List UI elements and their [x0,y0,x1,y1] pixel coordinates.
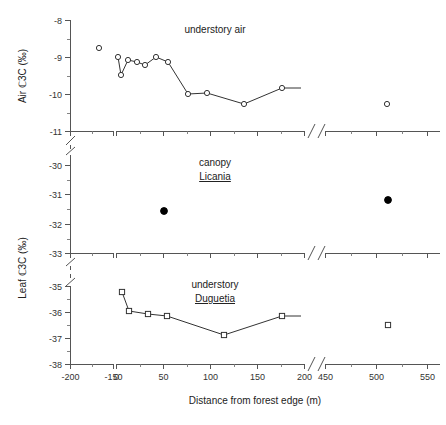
mid-x-axis-break-icon [308,246,325,260]
x-ticklabel: 100 [203,372,218,382]
top-x-axis-break-icon [308,124,325,138]
mid-y-ticklabel: -31 [49,190,62,200]
top-data-point [185,91,190,96]
bot-x-axis-break-icon [308,357,325,371]
top-y-ticklabel: -9 [54,53,62,63]
mid-panel-title: canopy [199,157,231,168]
top-data-point [125,57,130,62]
top-isolated-point-right [384,101,389,106]
x-ticklabel: 450 [318,372,333,382]
x-ticklabel: 500 [369,372,384,382]
bot-data-point [279,313,284,318]
panel-bottom-understory-duguetia: -35 -36 -37 -38 understory [49,274,440,371]
x-ticklabel: -200 [61,372,79,382]
top-y-axis-break-icon [66,136,75,145]
bot-y-axis-break-icon-top [66,278,75,286]
mid-y-ticklabel: -32 [49,220,62,230]
mid-panel-subtitle: Licania [199,171,231,182]
top-y-ticklabel: -10 [49,90,62,100]
bot-data-point [119,289,124,294]
bot-y-ticklabel: -37 [49,334,62,344]
top-data-point [142,62,147,67]
top-data-point [165,59,170,64]
figure-container: Air ℂ3C (‰) Leaf ℂ3C (‰) -8 -9 -10 -11 [0,0,446,425]
x-axis-ticklabels: -200 -150 0 50 100 150 200 450 500 550 [61,372,435,382]
top-data-point [241,101,246,106]
mid-data-point [161,208,168,215]
panel-top-understory-air: -8 -9 -10 -11 [49,16,440,149]
top-isolated-point-left [96,45,101,50]
panel-middle-canopy-licania: -30 -31 -32 -33 canopy [49,147,440,270]
mid-y-axis-break-icon-bottom [66,258,75,266]
top-data-point [153,54,158,59]
mid-y-ticklabel: -30 [49,161,62,171]
bot-data-point [221,332,226,337]
bot-panel-subtitle: Duguetia [195,293,235,304]
top-data-point [134,59,139,64]
x-ticklabel: 200 [297,372,312,382]
bot-data-point [126,308,131,313]
bot-isolated-point-right [385,322,390,327]
bot-data-point [164,313,169,318]
top-data-point [118,72,123,77]
top-panel-title: understory air [184,24,246,35]
x-ticklabel: 0 [114,372,119,382]
top-data-point [279,85,284,90]
top-data-point [115,54,120,59]
top-y-ticklabel: -8 [54,16,62,26]
y-axis-title-air: Air ℂ3C (‰) [17,49,28,103]
x-ticklabel: 150 [250,372,265,382]
bot-panel-title: understory [191,279,238,290]
bot-y-ticklabel: -38 [49,360,62,370]
top-data-point [204,90,209,95]
bot-y-ticklabel: -35 [49,282,62,292]
chart-svg: Air ℂ3C (‰) Leaf ℂ3C (‰) -8 -9 -10 -11 [0,0,446,425]
mid-y-ticklabel: -33 [49,249,62,259]
mid-data-point [385,197,392,204]
x-ticklabel: 550 [420,372,435,382]
bot-y-ticklabel: -36 [49,308,62,318]
y-axis-title-leaf: Leaf ℂ3C (‰) [17,237,28,298]
top-y-ticklabel: -11 [50,127,62,137]
bot-data-point [145,311,150,316]
x-ticklabel: 50 [158,372,168,382]
x-axis-title: Distance from forest edge (m) [189,395,321,406]
